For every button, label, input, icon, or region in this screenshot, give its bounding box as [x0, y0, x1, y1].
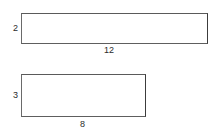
rectangle-1: [21, 13, 208, 44]
diagram-canvas: 2 12 3 8: [0, 0, 219, 137]
rectangle-2: [21, 74, 146, 117]
rectangle-2-width-label: 8: [80, 119, 85, 129]
rectangle-2-height-label: 3: [13, 90, 18, 100]
rectangle-1-height-label: 2: [13, 23, 18, 33]
rectangle-1-width-label: 12: [104, 45, 114, 55]
